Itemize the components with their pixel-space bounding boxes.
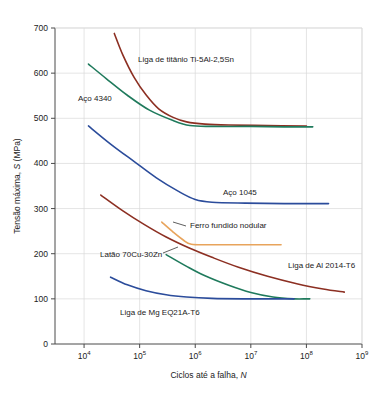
x-tick-label: 106 — [189, 350, 202, 361]
series-label-2: Aço 1045 — [223, 188, 257, 197]
x-tick-label: 104 — [78, 350, 91, 361]
y-axis-title: Tensão máxima, S (MPa) — [12, 138, 22, 234]
y-tick-label: 100 — [34, 294, 48, 304]
x-tick-label: 105 — [133, 350, 146, 361]
series-label-4: Liga de Al 2014-T6 — [288, 261, 356, 270]
series-curve-2 — [88, 126, 328, 204]
series-label-0: Liga de titânio Ti-5Al-2,5Sn — [138, 55, 234, 64]
x-axis-title: Ciclos até a falha, N — [170, 370, 247, 380]
sp-curve-figure: 0100200300400500600700104105106107108109… — [0, 0, 388, 395]
series-curve-1 — [88, 64, 312, 127]
fatigue-sn-chart: 0100200300400500600700104105106107108109… — [0, 0, 388, 395]
series-label-5: Latão 70Cu-30Zn — [100, 250, 162, 259]
axes — [51, 28, 362, 348]
series-curve-4 — [101, 195, 344, 292]
series-label-3: Ferro fundido nodular — [190, 221, 267, 230]
x-tick-label: 109 — [356, 350, 369, 361]
series-curve-0 — [114, 33, 306, 126]
y-tick-label: 300 — [34, 204, 48, 214]
x-tick-label: 107 — [244, 350, 257, 361]
curve-labels: Liga de titânio Ti-5Al-2,5SnAço 4340Aço … — [78, 55, 356, 317]
y-tick-label: 700 — [34, 23, 48, 33]
y-tick-label: 200 — [34, 249, 48, 259]
latao-leader — [163, 247, 178, 253]
series-label-6: Liga de Mg EQ21A-T6 — [120, 308, 200, 317]
series-label-1: Aço 4340 — [78, 94, 112, 103]
y-tick-label: 0 — [43, 339, 48, 349]
ferro-leader — [173, 222, 186, 226]
y-tick-label: 500 — [34, 113, 48, 123]
y-tick-label: 400 — [34, 158, 48, 168]
x-tick-label: 108 — [300, 350, 313, 361]
y-tick-label: 600 — [34, 68, 48, 78]
